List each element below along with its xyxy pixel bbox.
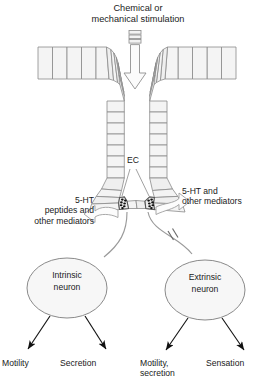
stimulation-arrow-segment-2 xyxy=(129,35,141,39)
ec-cell-left xyxy=(119,197,129,210)
left-epithelium xyxy=(38,47,124,178)
output-arrows xyxy=(28,316,244,350)
page-title: Chemical or mechanical stimulation xyxy=(58,3,218,26)
right-epithelium xyxy=(150,47,236,178)
left-mediators-label: 5-HT peptides and other mediators xyxy=(4,195,94,226)
extrinsic-neuron-label: Extrinsic neuron xyxy=(163,272,247,295)
arrow-to-sensation xyxy=(222,318,244,350)
stimulation-arrow-segment-1 xyxy=(129,31,141,35)
arrow-to-motility xyxy=(28,316,50,349)
ec-cell-right xyxy=(145,197,155,210)
output-label-motility: Motility xyxy=(2,358,58,368)
stimulation-arrow-group xyxy=(124,31,146,90)
arrow-to-secretion xyxy=(85,316,106,349)
ec-cell-label: EC xyxy=(120,155,146,165)
output-label-secretion: Secretion xyxy=(60,358,122,368)
extrinsic-connector xyxy=(148,212,192,254)
stimulation-arrow-segment-3 xyxy=(129,40,141,44)
arrow-to-motility-secretion xyxy=(166,318,188,350)
stimulation-arrow-shaft xyxy=(124,45,146,89)
right-mediators-label: 5-HT and other mediators xyxy=(182,186,272,207)
intrinsic-connector xyxy=(104,212,127,257)
intrinsic-neuron-label: Intrinsic neuron xyxy=(25,270,109,293)
output-label-sensation: Sensation xyxy=(206,358,268,368)
synapse-break-mark xyxy=(168,229,178,241)
enteric-signaling-diagram: Chemical or mechanical stimulation EC 5-… xyxy=(0,0,274,385)
ec-leader-lines xyxy=(122,169,149,196)
output-label-motility-secretion: Motility, secretion xyxy=(140,358,200,379)
neuron-connectors xyxy=(104,212,192,257)
